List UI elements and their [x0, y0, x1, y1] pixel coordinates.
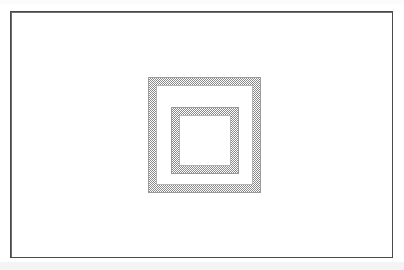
- inner-square-ring: [171, 107, 239, 174]
- figure-border-frame: [10, 11, 393, 258]
- figure-canvas: [0, 0, 404, 270]
- scan-artifact-bottom: [0, 262, 404, 270]
- inner-square-interior: [179, 115, 231, 166]
- scan-artifact-top: [0, 0, 404, 4]
